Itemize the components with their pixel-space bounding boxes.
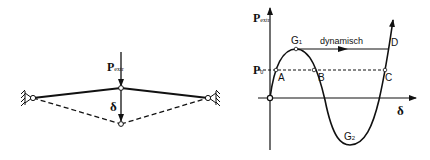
truss-bar-left xyxy=(33,88,121,98)
point-b-label: B xyxy=(318,73,325,83)
p0-label: P0 xyxy=(253,64,263,76)
dynamic-label: dynamisch xyxy=(320,37,363,46)
truss-bar-right xyxy=(121,88,208,98)
deflection-label: δ xyxy=(110,100,117,113)
diagram-canvas xyxy=(0,0,430,160)
y-axis-label: Pextr xyxy=(253,12,270,24)
point-c-label: C xyxy=(385,73,392,83)
point-a-label: A xyxy=(278,73,285,83)
load-label: Pextr xyxy=(107,61,124,73)
point-d-label: D xyxy=(391,38,398,48)
dynamic-arrow-icon xyxy=(338,46,348,52)
g2-label: G2 xyxy=(344,132,355,142)
g1-label: G1 xyxy=(291,36,302,46)
x-axis-label: δ xyxy=(397,104,404,117)
